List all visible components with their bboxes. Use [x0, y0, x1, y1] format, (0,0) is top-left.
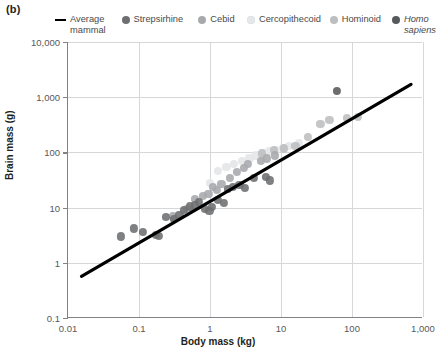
y-gridline — [68, 263, 422, 264]
data-point-cebid — [263, 154, 271, 162]
x-gridline — [139, 42, 140, 317]
legend-dot-swatch — [247, 16, 255, 24]
y-tick-mark — [63, 263, 68, 264]
data-point-homo-sapiens — [333, 87, 341, 95]
y-gridline — [68, 42, 422, 43]
data-point-hominoid — [354, 113, 362, 121]
data-point-strepsirhine — [207, 203, 215, 211]
data-point-cebid — [271, 151, 279, 159]
y-gridline — [68, 208, 422, 209]
legend-dot-swatch — [122, 16, 130, 24]
legend-item-label: Average mammal — [70, 14, 122, 36]
y-tick-mark — [63, 208, 68, 209]
y-tick-label: 100 — [44, 147, 60, 158]
legend-dot-swatch — [198, 16, 206, 24]
legend-dot-swatch — [392, 16, 400, 24]
y-axis-title: Brain mass (g) — [4, 111, 15, 180]
figure-panel-b: (b) Average mammalStrepsirhineCebidCerco… — [0, 0, 436, 356]
data-point-strepsirhine — [250, 174, 258, 182]
plot-area: 0.010.11101001,0000.11101001,00010,000 — [67, 42, 422, 318]
plot-inner — [68, 42, 422, 317]
data-point-strepsirhine — [139, 228, 147, 236]
data-point-cebid — [226, 174, 234, 182]
y-tick-mark — [63, 97, 68, 98]
y-tick-label: 0.1 — [47, 313, 60, 324]
x-gridline — [281, 42, 282, 317]
legend-item-label: Cebid — [210, 14, 234, 25]
data-point-strepsirhine — [155, 232, 163, 240]
x-axis-title: Body mass (kg) — [0, 336, 436, 347]
y-tick-mark — [63, 318, 68, 319]
data-point-strepsirhine — [116, 232, 124, 240]
data-point-strepsirhine — [265, 176, 273, 184]
x-tick-label: 1,000 — [411, 323, 435, 334]
x-gridline — [423, 42, 424, 317]
data-point-cercopithecoid — [214, 167, 222, 175]
legend-item-cercopithecoid[interactable]: Cercopithecoid — [247, 14, 330, 25]
legend-item-label: Cercopithecoid — [259, 14, 321, 25]
legend-item-label: Hominoid — [342, 14, 381, 25]
legend-dot-swatch — [330, 16, 338, 24]
x-tick-label: 100 — [344, 323, 360, 334]
data-point-cebid — [244, 160, 252, 168]
data-point-hominoid — [316, 120, 324, 128]
y-tick-mark — [63, 42, 68, 43]
legend-item-hominoid[interactable]: Hominoid — [330, 14, 392, 25]
x-tick-label: 10 — [276, 323, 287, 334]
data-point-strepsirhine — [130, 224, 138, 232]
legend-item-strepsirhine[interactable]: Strepsirhine — [122, 14, 199, 25]
data-point-hominoid — [280, 144, 288, 152]
y-gridline — [68, 97, 422, 98]
panel-label: (b) — [6, 3, 21, 15]
x-tick-label: 0.1 — [132, 323, 145, 334]
data-point-cebid — [204, 190, 212, 198]
y-tick-mark — [63, 152, 68, 153]
data-point-strepsirhine — [162, 213, 170, 221]
data-point-hominoid — [304, 133, 312, 141]
legend-item-average-mammal[interactable]: Average mammal — [55, 14, 122, 36]
data-point-hominoid — [291, 142, 299, 150]
y-gridline — [68, 152, 422, 153]
data-point-hominoid — [325, 116, 333, 124]
data-point-strepsirhine — [241, 184, 249, 192]
data-point-hominoid — [343, 114, 351, 122]
y-tick-label: 10 — [49, 202, 60, 213]
x-gridline — [352, 42, 353, 317]
legend-item-homo-sapiens[interactable]: Homo sapiens — [392, 14, 436, 36]
legend-item-label: Homo sapiens — [404, 14, 436, 36]
legend-item-cebid[interactable]: Cebid — [198, 14, 247, 25]
y-tick-label: 1 — [55, 257, 60, 268]
y-tick-label: 10,000 — [31, 37, 60, 48]
legend-item-label: Strepsirhine — [134, 14, 184, 25]
legend-line-swatch — [55, 19, 66, 22]
x-tick-label: 1 — [207, 323, 212, 334]
x-tick-label: 0.01 — [59, 323, 78, 334]
data-point-strepsirhine — [219, 199, 227, 207]
y-tick-label: 1,000 — [36, 92, 60, 103]
